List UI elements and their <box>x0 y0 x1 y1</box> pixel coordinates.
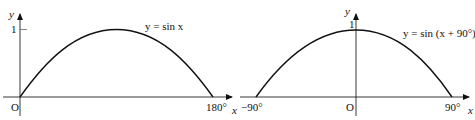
right-shifted-sine-curve <box>256 30 452 97</box>
left-x-tick-label-180: 180° <box>206 101 227 113</box>
right-origin-label: O <box>346 101 354 113</box>
right-x-tick-label-90: 90° <box>445 101 460 113</box>
left-x-axis-label: x <box>231 104 237 116</box>
left-y-axis-label: y <box>8 8 14 20</box>
left-chart: y 1 O 180° x y = sin x <box>3 8 237 116</box>
right-curve-label: y = sin (x + 90°) <box>403 27 475 40</box>
left-y-tick-label: 1 <box>11 23 17 35</box>
right-y-tick-label: 1 <box>349 18 355 30</box>
right-y-axis-label: y <box>344 5 350 17</box>
right-x-axis-label: x <box>467 104 473 116</box>
right-x-tick-label-neg90: −90° <box>241 101 263 113</box>
right-chart: y 1 O −90° 90° x y = sin (x + 90°) <box>240 5 475 116</box>
left-origin-label: O <box>11 101 19 113</box>
sine-graphs: y 1 O 180° x y = sin x y 1 O −90° 90° x … <box>0 0 475 120</box>
left-curve-label: y = sin x <box>145 20 184 32</box>
left-sine-curve <box>20 30 213 98</box>
